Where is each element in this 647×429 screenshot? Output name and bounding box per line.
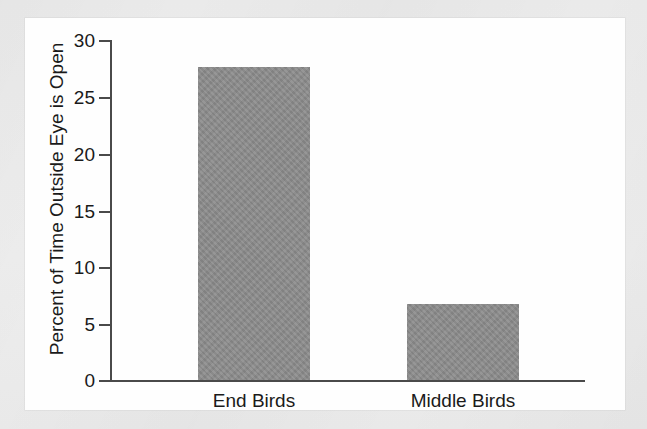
y-tick-20: [99, 154, 110, 156]
y-tick-label-0: 0: [25, 370, 95, 392]
y-tick-5: [99, 324, 110, 326]
y-axis-line: [110, 40, 112, 382]
y-tick-label-5: 5: [25, 314, 95, 336]
figure-panel: Percent of Time Outside Eye is Open 30 2…: [25, 18, 625, 410]
y-tick-10: [99, 267, 110, 269]
y-tick-25: [99, 97, 110, 99]
y-tick-0: [99, 380, 110, 382]
y-tick-label-10: 10: [25, 257, 95, 279]
y-tick-15: [99, 211, 110, 213]
category-label-middle-birds: Middle Birds: [403, 390, 523, 412]
y-tick-label-15: 15: [25, 201, 95, 223]
bar-middle-birds: [407, 304, 519, 380]
plot-area: Percent of Time Outside Eye is Open 30 2…: [25, 18, 625, 410]
y-tick-label-25: 25: [25, 87, 95, 109]
y-tick-label-20: 20: [25, 144, 95, 166]
x-axis-line: [110, 380, 585, 382]
y-tick-30: [99, 40, 110, 42]
y-tick-label-30: 30: [25, 30, 95, 52]
category-label-end-birds: End Birds: [194, 390, 314, 412]
chart-screenshot: Percent of Time Outside Eye is Open 30 2…: [0, 0, 647, 429]
bar-end-birds: [198, 67, 310, 380]
